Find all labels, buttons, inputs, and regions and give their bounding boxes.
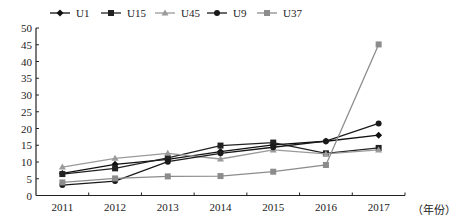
data-point-marker: [112, 175, 118, 181]
y-tick-label: 40: [21, 56, 33, 68]
legend-label: U37: [283, 7, 302, 19]
y-tick-label: 20: [21, 123, 33, 135]
data-point-marker: [323, 138, 329, 144]
legend-marker-icon: [57, 10, 64, 17]
data-point-marker: [112, 165, 118, 171]
legend-marker-icon: [214, 10, 220, 16]
x-axis-label: （年份）: [412, 203, 456, 216]
y-tick-label: 25: [21, 106, 33, 118]
legend-item-u1: U1: [50, 7, 89, 19]
legend-label: U9: [233, 7, 247, 19]
data-point-marker: [375, 132, 382, 139]
x-tick-label: 2013: [157, 201, 180, 213]
legend-item-u37: U37: [257, 7, 302, 19]
legend-item-u15: U15: [101, 7, 146, 19]
data-point-marker: [165, 173, 171, 179]
series-u37: [59, 41, 381, 185]
y-tick-label: 35: [21, 72, 33, 84]
y-tick-label: 5: [27, 173, 33, 185]
data-point-marker: [218, 143, 224, 149]
legend-item-u45: U45: [155, 7, 200, 19]
data-point-marker: [270, 144, 276, 150]
x-tick-label: 2011: [52, 201, 74, 213]
line-chart: U1U15U45U9U37 05101520253035404550 20112…: [0, 0, 457, 222]
x-tick-label: 2014: [210, 201, 233, 213]
y-tick-label: 30: [21, 89, 33, 101]
legend-item-u9: U9: [207, 7, 247, 19]
legend-marker-icon: [264, 10, 270, 16]
series-lines: [59, 41, 382, 188]
x-tick-label: 2017: [368, 201, 391, 213]
data-point-marker: [164, 150, 171, 156]
x-axis: 2011201220132014201520162017: [36, 193, 405, 213]
x-tick-label: 2012: [104, 201, 126, 213]
legend-label: U1: [76, 7, 89, 19]
x-tick-label: 2016: [315, 201, 338, 213]
data-point-marker: [59, 171, 65, 177]
data-point-marker: [59, 179, 65, 185]
y-tick-label: 50: [21, 22, 33, 34]
data-point-marker: [323, 162, 329, 168]
data-point-marker: [218, 173, 224, 179]
legend-label: U15: [127, 7, 146, 19]
legend-label: U45: [181, 7, 200, 19]
x-tick-label: 2015: [262, 201, 285, 213]
data-point-marker: [376, 120, 382, 126]
y-tick-label: 45: [21, 39, 33, 51]
data-point-marker: [270, 169, 276, 175]
y-tick-label: 10: [21, 156, 33, 168]
data-point-marker: [376, 41, 382, 47]
data-point-marker: [165, 159, 171, 165]
data-point-marker: [218, 150, 224, 156]
y-tick-label: 15: [21, 139, 33, 151]
legend-marker-icon: [108, 10, 114, 16]
legend: U1U15U45U9U37: [50, 7, 302, 19]
y-axis: 05101520253035404550: [21, 22, 39, 202]
y-tick-label: 0: [27, 190, 33, 202]
